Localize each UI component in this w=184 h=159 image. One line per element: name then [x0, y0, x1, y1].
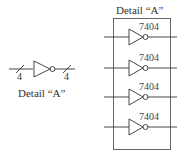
- bus-width-in: 4: [17, 72, 22, 82]
- bus-width-out: 4: [64, 72, 69, 82]
- right-detail-title: Detail “A”: [116, 5, 163, 16]
- gate-part-label-4: 7404: [139, 112, 159, 122]
- gate-part-label-3: 7404: [139, 82, 159, 92]
- left-detail-label: Detail “A”: [18, 88, 65, 99]
- gate-part-label-2: 7404: [139, 53, 159, 63]
- gate-part-label-1: 7404: [139, 22, 159, 32]
